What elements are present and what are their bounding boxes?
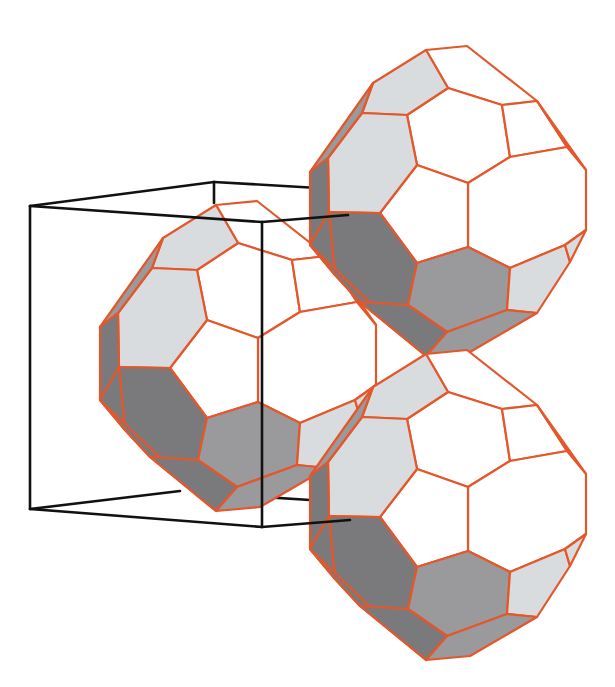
cube-edge	[214, 182, 318, 188]
cube-edge	[30, 491, 180, 509]
cube-edge	[30, 182, 214, 206]
polyhedra-illustration	[0, 0, 615, 687]
cube-edge	[30, 509, 262, 527]
cage-group	[100, 46, 586, 660]
figure-canvas: Three polyhedral cages (truncated-icosah…	[0, 0, 615, 687]
